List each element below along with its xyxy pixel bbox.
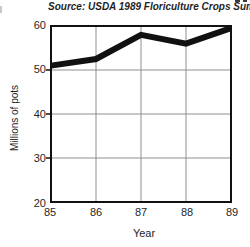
x-axis-title: Year — [114, 227, 174, 239]
y-tick-label-50: 50 — [18, 64, 46, 75]
y-tick-label-40: 40 — [18, 109, 46, 120]
x-tick-label-87: 87 — [126, 207, 156, 218]
x-tick-label-89: 89 — [217, 207, 247, 218]
x-tick-label-86: 86 — [81, 207, 111, 218]
x-tick-label-88: 88 — [172, 207, 202, 218]
floriculture-line-chart-figure: Source: USDA 1989 Floriculture Crops Sum… — [0, 0, 250, 247]
y-tick-label-60: 60 — [18, 20, 46, 31]
plot-area — [50, 25, 232, 203]
cropped-text-artifact — [0, 6, 2, 13]
y-tick-label-30: 30 — [18, 153, 46, 164]
source-note: Source: USDA 1989 Floriculture Crops Sum… — [48, 1, 248, 12]
x-tick-label-85: 85 — [35, 207, 65, 218]
